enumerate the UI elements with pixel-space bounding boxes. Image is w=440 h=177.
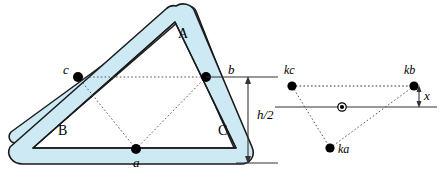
mass-marker-kc <box>287 81 296 90</box>
triangle-frame-outer-edge <box>9 4 254 164</box>
midpoint-label-c: c <box>63 63 69 76</box>
mass-marker-ka <box>325 143 334 152</box>
centroid-marker-core <box>340 105 344 109</box>
mass-marker-kb <box>409 81 418 90</box>
mass-label-ka: ka <box>338 143 349 155</box>
midpoint-label-a: a <box>133 156 140 169</box>
vertex-label-C: C <box>218 124 227 138</box>
dotted-segment-ka-kb <box>330 86 414 148</box>
figure-vector-graphics <box>0 0 440 177</box>
figure-canvas: A B C a b c h/2 kc kb ka x <box>0 0 440 177</box>
vertex-label-A: A <box>178 27 188 41</box>
dotted-segment-a-b <box>136 77 206 149</box>
triangle-frame-outline <box>9 4 254 164</box>
dotted-segment-kc-ka <box>292 86 330 148</box>
vertex-label-B: B <box>58 124 67 138</box>
mass-label-kc: kc <box>284 64 295 76</box>
offset-label-x: x <box>424 89 430 102</box>
half-height-label: h/2 <box>257 108 274 121</box>
mass-label-kb: kb <box>404 64 415 76</box>
midpoint-marker-a <box>131 144 141 154</box>
midpoint-label-b: b <box>228 63 235 76</box>
midpoint-marker-c <box>73 72 83 82</box>
point-mass-diagram-group <box>275 81 437 152</box>
